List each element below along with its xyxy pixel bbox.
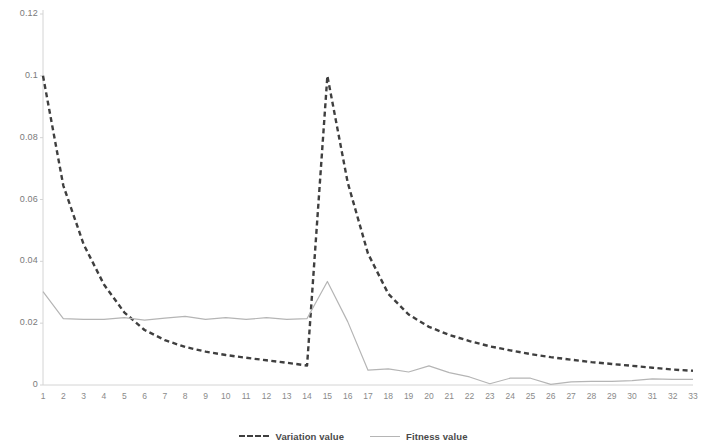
x-axis-tick-label: 29 [604,392,620,401]
x-axis-tick-label: 25 [523,392,539,401]
series-line-variation-value [43,76,693,371]
x-axis-tick-label: 15 [319,392,335,401]
x-axis-tick-label: 12 [258,392,274,401]
x-axis-tick-label: 3 [76,392,92,401]
x-axis-tick-label: 30 [624,392,640,401]
legend-label: Fitness value [406,431,468,442]
chart-series [43,76,693,385]
x-axis-tick-label: 9 [198,392,214,401]
x-axis-tick-label: 16 [340,392,356,401]
chart-container: 00.020.040.060.080.10.12 123456789101112… [0,0,707,447]
x-axis-tick-label: 20 [421,392,437,401]
x-axis-tick-label: 7 [157,392,173,401]
x-axis-tick-label: 22 [462,392,478,401]
chart-legend: Variation valueFitness value [0,425,707,447]
legend-swatch-dashed-icon [239,435,269,437]
y-axis-tick-labels: 00.020.040.060.080.10.12 [0,0,38,447]
x-axis-tick-label: 4 [96,392,112,401]
x-axis-tick-label: 14 [299,392,315,401]
x-axis-tick-label: 10 [218,392,234,401]
x-axis-tick-label: 2 [55,392,71,401]
x-axis-tick-label: 31 [644,392,660,401]
legend-swatch-solid-icon [370,436,400,437]
x-axis-tick-label: 6 [137,392,153,401]
x-axis-tick-label: 28 [583,392,599,401]
x-axis-tick-label: 32 [665,392,681,401]
x-axis-tick-label: 5 [116,392,132,401]
x-axis-tick-label: 21 [441,392,457,401]
legend-item-variation-value[interactable]: Variation value [239,431,344,442]
y-axis-tick-label: 0 [4,380,38,389]
series-line-fitness-value [43,281,693,384]
y-axis-tick-label: 0.02 [4,318,38,327]
x-axis-tick-label: 24 [502,392,518,401]
line-chart-plot [0,0,707,447]
y-axis-tick-label: 0.04 [4,256,38,265]
x-axis-tick-label: 13 [279,392,295,401]
y-axis-tick-label: 0.1 [4,71,38,80]
y-axis-tick-label: 0.06 [4,195,38,204]
x-axis-tick-label: 8 [177,392,193,401]
y-axis-tick-label: 0.12 [4,9,38,18]
legend-label: Variation value [275,431,344,442]
x-axis-tick-label: 17 [360,392,376,401]
x-axis-tick-label: 33 [685,392,701,401]
x-axis-tick-label: 19 [401,392,417,401]
x-axis-tick-label: 26 [543,392,559,401]
x-axis-tick-label: 27 [563,392,579,401]
legend-item-fitness-value[interactable]: Fitness value [370,431,468,442]
x-axis-tick-label: 11 [238,392,254,401]
x-axis-tick-label: 23 [482,392,498,401]
x-axis-tick-label: 1 [35,392,51,401]
x-axis-tick-label: 18 [380,392,396,401]
chart-axes [40,10,693,385]
y-axis-tick-label: 0.08 [4,133,38,142]
